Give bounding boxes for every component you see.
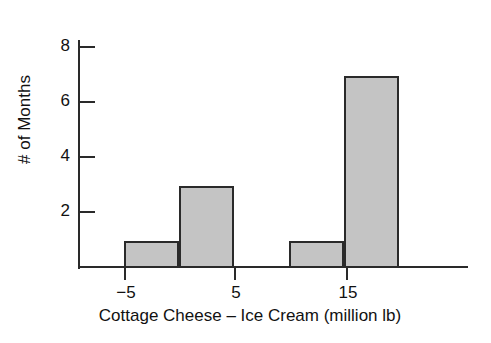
x-tick-label-5: 5: [206, 283, 266, 302]
y-tick-8: 8: [0, 46, 95, 48]
y-tick-mark: [80, 46, 95, 48]
y-tick-label: 4: [44, 147, 70, 164]
y-tick-label: 2: [44, 202, 70, 219]
x-tick-mark-5: [234, 268, 236, 280]
y-tick-mark: [80, 156, 95, 158]
histogram-bar: [344, 76, 399, 269]
histogram-figure: 8 6 4 2 −5 5 15 Cottage Cheese – Ice Cre…: [0, 0, 491, 343]
x-tick-label-15: 15: [318, 283, 378, 302]
y-tick-mark: [80, 211, 95, 213]
x-tick-mark-neg5: [124, 268, 126, 280]
histogram-bar: [289, 241, 344, 269]
x-tick-label-neg5: −5: [96, 283, 156, 302]
x-axis-title: Cottage Cheese – Ice Cream (million lb): [60, 306, 440, 326]
y-tick-label: 6: [44, 92, 70, 109]
y-axis-line: [78, 40, 80, 269]
y-axis-title: # of Months: [15, 50, 34, 190]
histogram-bar: [124, 241, 179, 269]
y-tick-label: 8: [44, 37, 70, 54]
y-tick-2: 2: [0, 211, 95, 213]
histogram-bar: [179, 186, 234, 269]
y-tick-mark: [80, 101, 95, 103]
x-tick-mark-15: [346, 268, 348, 280]
